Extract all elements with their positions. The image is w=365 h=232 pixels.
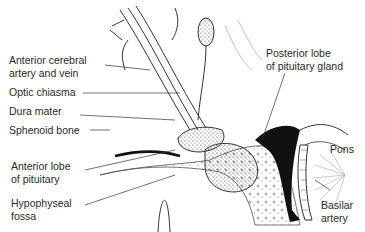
label-sphenoid-bone: Sphenoid bone — [9, 124, 80, 137]
label-basilar-artery: Basilar artery — [321, 199, 353, 224]
label-hypophyseal-fossa: Hypophyseal fossa — [11, 197, 72, 222]
sphenoid-bone-shape — [100, 146, 300, 225]
cerebral-vessels — [110, 6, 206, 130]
label-anterior-cerebral: Anterior cerebral artery and vein — [9, 54, 87, 79]
pons-rays — [313, 150, 345, 205]
label-pons: Pons — [330, 143, 354, 156]
basilar-artery-shape — [298, 145, 312, 220]
label-anterior-lobe: Anterior lobe of pituitary — [11, 160, 71, 185]
pituitary-diagram: Anterior cerebral artery and vein Optic … — [0, 0, 365, 232]
pituitary-stalk — [198, 18, 214, 120]
label-optic-chiasma: Optic chiasma — [9, 86, 76, 99]
dura-mater-line — [115, 152, 180, 157]
label-dura-mater: Dura mater — [9, 105, 62, 118]
label-posterior-lobe: Posterior lobe of pituitary gland — [266, 47, 343, 72]
